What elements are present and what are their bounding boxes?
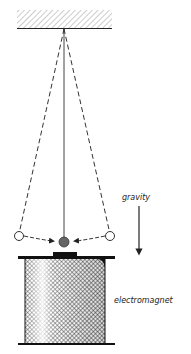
swing-extreme-right xyxy=(106,232,115,241)
electromagnet-coil xyxy=(18,252,115,345)
ceiling-support xyxy=(17,10,112,29)
pendulum-bob xyxy=(59,237,69,247)
swing-extreme-left xyxy=(15,232,24,241)
swing-string-right xyxy=(64,29,110,234)
swing-string-left xyxy=(19,29,64,234)
electromagnet-label: electromagnet xyxy=(114,296,173,305)
gravity-label: gravity xyxy=(122,193,150,202)
